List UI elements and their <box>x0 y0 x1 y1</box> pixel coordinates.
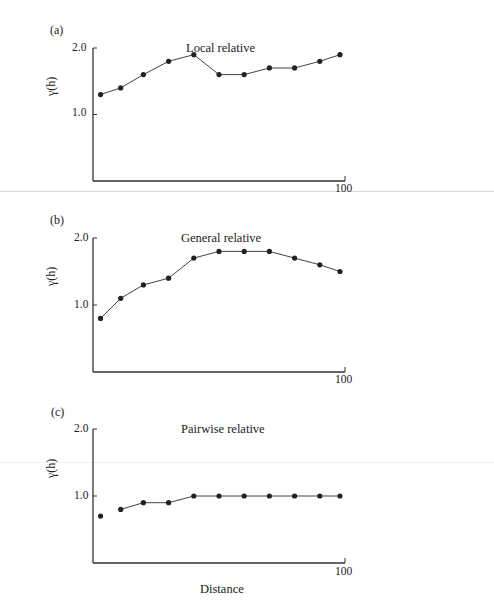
y-axis-label-b: γ(h) <box>44 267 59 286</box>
data-point-marker <box>98 316 103 321</box>
data-point-marker <box>242 249 247 254</box>
data-point-marker <box>216 249 221 254</box>
series-line <box>121 496 340 509</box>
data-point-marker <box>317 59 322 64</box>
data-point-marker <box>267 493 272 498</box>
chart-title-c: Pairwise relative <box>181 422 265 437</box>
panel-tag-c: (c) <box>51 405 64 420</box>
data-point-marker <box>191 493 196 498</box>
data-point-marker <box>141 500 146 505</box>
data-point-marker <box>141 72 146 77</box>
data-point-marker <box>98 92 103 97</box>
data-point-marker <box>292 256 297 261</box>
x-tick-100-a: 100 <box>335 182 352 194</box>
data-point-marker <box>267 249 272 254</box>
y-tick-2-b: 2.0 <box>74 231 88 243</box>
data-point-marker <box>141 282 146 287</box>
data-point-marker <box>292 493 297 498</box>
data-point-marker <box>166 500 171 505</box>
y-tick-1-a: 1.0 <box>72 106 86 118</box>
data-point-marker <box>317 493 322 498</box>
data-point-marker <box>166 276 171 281</box>
data-point-marker <box>337 493 342 498</box>
data-point-marker <box>166 59 171 64</box>
y-tick-1-b: 1.0 <box>74 298 88 310</box>
panel-tag-a: (a) <box>50 23 63 38</box>
panel-tag-b: (b) <box>50 213 64 228</box>
data-point-marker <box>216 72 221 77</box>
data-point-marker <box>118 507 123 512</box>
data-point-marker <box>317 262 322 267</box>
data-point-marker <box>191 256 196 261</box>
data-point-marker <box>337 269 342 274</box>
data-point-marker <box>118 296 123 301</box>
data-point-marker <box>216 493 221 498</box>
y-tick-2-c: 2.0 <box>74 422 88 434</box>
series-line <box>101 251 340 318</box>
chart-title-b: General relative <box>181 231 261 246</box>
data-point-marker <box>98 514 103 519</box>
y-axis-label-c: γ(h) <box>44 459 59 478</box>
x-axis-label: Distance <box>200 582 244 597</box>
y-tick-2-a: 2.0 <box>72 41 86 53</box>
data-point-marker <box>118 85 123 90</box>
x-tick-100-b: 100 <box>335 373 352 385</box>
data-point-marker <box>337 52 342 57</box>
chart-title-a: Local relative <box>186 41 255 56</box>
data-point-marker <box>267 65 272 70</box>
x-tick-100-c: 100 <box>335 565 352 577</box>
y-axis-label-a: γ(h) <box>44 77 59 96</box>
data-point-marker <box>292 65 297 70</box>
data-point-marker <box>242 72 247 77</box>
y-tick-1-c: 1.0 <box>74 489 88 501</box>
data-point-marker <box>242 493 247 498</box>
